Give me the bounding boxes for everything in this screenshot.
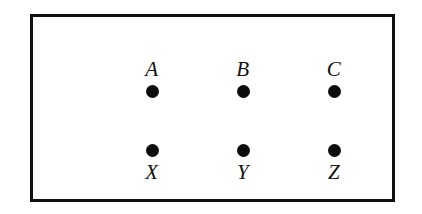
node-b: B	[213, 59, 273, 98]
node-dot-c	[328, 85, 341, 98]
node-label-b: B	[213, 59, 273, 80]
node-dot-b	[237, 85, 250, 98]
node-label-z: Z	[304, 162, 364, 183]
node-z: Z	[304, 144, 364, 183]
node-label-x: X	[122, 162, 182, 183]
node-label-a: A	[122, 59, 182, 80]
diagram-frame: A B C X Y Z	[30, 14, 395, 202]
node-y: Y	[213, 144, 273, 183]
node-dot-x	[146, 144, 159, 157]
node-dot-a	[146, 85, 159, 98]
node-x: X	[122, 144, 182, 183]
node-label-c: C	[304, 59, 364, 80]
node-a: A	[122, 59, 182, 98]
node-dot-z	[328, 144, 341, 157]
figure-canvas: A B C X Y Z	[0, 0, 422, 214]
node-label-y: Y	[213, 162, 273, 183]
node-dot-y	[237, 144, 250, 157]
node-c: C	[304, 59, 364, 98]
